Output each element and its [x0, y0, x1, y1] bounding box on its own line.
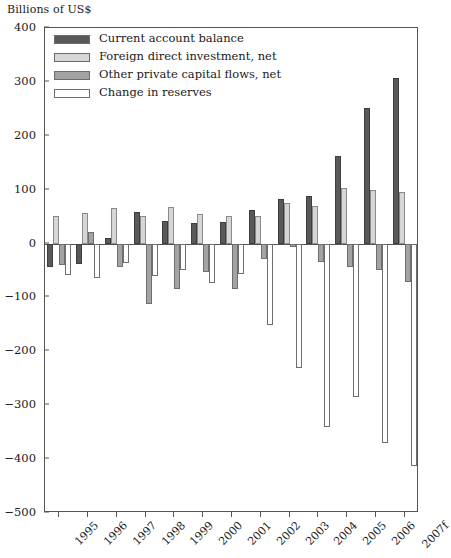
bar: [370, 190, 376, 244]
x-tick-mark: [231, 512, 232, 517]
x-tick-mark: [260, 512, 261, 517]
x-tick-mark: [346, 512, 347, 517]
bar: [140, 216, 146, 244]
bar: [76, 244, 82, 264]
legend-item: Other private capital flows, net: [54, 67, 281, 83]
legend-label: Change in reserves: [99, 87, 212, 99]
y-tick-label: −300: [0, 397, 44, 411]
bar: [296, 244, 302, 368]
bar: [123, 244, 129, 263]
bar: [382, 244, 388, 444]
x-tick-label: 2000: [216, 519, 245, 548]
y-tick-label: 400: [0, 20, 44, 34]
legend-label: Foreign direct investment, net: [99, 51, 277, 63]
x-tick-label: 1995: [73, 519, 102, 548]
x-tick-label: 2006: [389, 519, 418, 548]
y-tick-label: 0: [0, 236, 44, 250]
x-tick-label: 2005: [360, 519, 389, 548]
bar: [47, 244, 53, 268]
bar: [341, 188, 347, 244]
x-tick-label: 2007f: [419, 519, 451, 551]
legend-label: Other private capital flows, net: [99, 69, 281, 81]
legend-item: Current account balance: [54, 31, 281, 47]
bar: [180, 244, 186, 270]
bar: [226, 216, 232, 244]
x-tick-label: 2004: [331, 519, 360, 548]
bar: [238, 244, 244, 274]
x-tick-mark: [202, 512, 203, 517]
y-tick-label: 100: [0, 182, 44, 196]
x-tick-label: 2001: [245, 519, 274, 548]
x-tick-label: 1996: [101, 519, 130, 548]
x-tick-mark: [404, 512, 405, 517]
bar: [267, 244, 273, 326]
bar: [411, 244, 417, 466]
light-gray-swatch: [54, 53, 90, 62]
x-tick-mark: [145, 512, 146, 517]
bar: [209, 244, 215, 283]
zero-baseline: [45, 244, 417, 245]
x-tick-mark: [116, 512, 117, 517]
x-tick-mark: [87, 512, 88, 517]
x-tick-mark: [289, 512, 290, 517]
bar: [53, 216, 59, 244]
x-tick-label: 1998: [159, 519, 188, 548]
bar: [168, 207, 174, 243]
legend-item: Foreign direct investment, net: [54, 49, 281, 65]
bar: [353, 244, 359, 398]
dark-gray-swatch: [54, 35, 90, 44]
bar: [284, 203, 290, 244]
y-tick-label: 300: [0, 74, 44, 88]
y-axis-title: Billions of US$: [7, 3, 92, 16]
x-tick-mark: [173, 512, 174, 517]
y-tick-label: −200: [0, 343, 44, 357]
y-tick-label: −500: [0, 505, 44, 519]
x-tick-label: 1999: [188, 519, 217, 548]
bar: [152, 244, 158, 276]
bar: [197, 214, 203, 243]
x-tick-mark: [317, 512, 318, 517]
bar: [255, 216, 261, 243]
x-tick-label: 2002: [274, 519, 303, 548]
x-tick-mark: [58, 512, 59, 517]
bar: [324, 244, 330, 428]
legend-item: Change in reserves: [54, 85, 281, 101]
bar: [65, 244, 71, 275]
legend-label: Current account balance: [99, 33, 244, 45]
bar: [111, 208, 117, 244]
x-tick-mark: [375, 512, 376, 517]
bar: [399, 192, 405, 244]
bar: [94, 244, 100, 278]
chart-legend: Current account balance Foreign direct i…: [54, 31, 281, 101]
white-swatch: [54, 89, 90, 98]
medium-gray-swatch: [54, 71, 90, 80]
x-tick-label: 2003: [303, 519, 332, 548]
y-tick-label: −100: [0, 289, 44, 303]
bar: [312, 206, 318, 244]
y-tick-label: 200: [0, 128, 44, 142]
bar: [88, 232, 94, 244]
x-tick-label: 1997: [130, 519, 159, 548]
y-tick-label: −400: [0, 451, 44, 465]
